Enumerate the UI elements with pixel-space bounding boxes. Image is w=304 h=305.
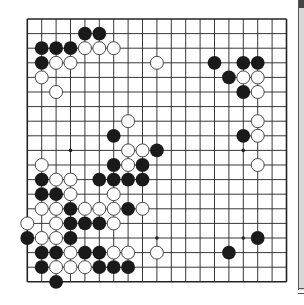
page-edge-cap: [299, 0, 304, 8]
black-stone: [35, 41, 49, 55]
white-stone: [50, 202, 63, 215]
white-stone: [251, 115, 264, 128]
white-stone: [50, 261, 63, 274]
star-point: [242, 149, 246, 153]
white-stone: [64, 56, 77, 69]
white-stone: [122, 159, 135, 172]
black-stone: [35, 173, 49, 187]
black-stone: [78, 217, 92, 231]
white-stone: [64, 173, 77, 186]
white-stone: [50, 232, 63, 245]
star-point: [69, 149, 73, 153]
white-stone: [150, 246, 163, 259]
white-stone: [251, 129, 264, 142]
black-stone: [136, 158, 150, 172]
black-stone: [78, 27, 92, 41]
white-stone: [251, 71, 264, 84]
white-stone: [64, 246, 77, 259]
white-stone: [150, 56, 163, 69]
black-stone: [92, 246, 106, 260]
black-stone: [92, 260, 106, 274]
white-stone: [50, 173, 63, 186]
white-stone: [93, 42, 106, 55]
black-stone: [35, 246, 49, 260]
white-stone: [251, 159, 264, 172]
black-stone: [107, 173, 121, 187]
go-board: [0, 0, 304, 305]
black-stone: [92, 173, 106, 187]
black-stone: [107, 158, 121, 172]
white-stone: [50, 217, 63, 230]
white-stone: [93, 202, 106, 215]
white-stone: [251, 86, 264, 99]
white-stone: [78, 261, 91, 274]
white-stone: [64, 188, 77, 201]
white-stone: [64, 261, 77, 274]
white-stone: [107, 42, 120, 55]
black-stone: [64, 41, 78, 55]
white-stone: [21, 217, 34, 230]
black-stone: [236, 85, 250, 99]
black-stone: [49, 275, 63, 289]
black-stone: [49, 41, 63, 55]
white-stone: [107, 202, 120, 215]
black-stone: [150, 144, 164, 158]
white-stone: [107, 188, 120, 201]
black-stone: [64, 217, 78, 231]
white-stone: [107, 246, 120, 259]
black-stone: [251, 231, 265, 245]
star-point: [242, 236, 246, 240]
black-stone: [107, 129, 121, 143]
black-stone: [49, 246, 63, 260]
white-stone: [35, 159, 48, 172]
black-stone: [251, 56, 265, 70]
white-stone: [136, 202, 149, 215]
page-edge-foot: [298, 288, 304, 294]
white-stone: [78, 42, 91, 55]
white-stone: [78, 202, 91, 215]
white-stone: [122, 144, 135, 157]
black-stone: [107, 260, 121, 274]
black-stone: [121, 202, 135, 216]
black-stone: [92, 217, 106, 231]
black-stone: [64, 231, 78, 245]
black-stone: [78, 246, 92, 260]
go-board-diagram: [0, 0, 304, 305]
black-stone: [64, 202, 78, 216]
black-stone: [49, 187, 63, 201]
white-stone: [107, 217, 120, 230]
black-stone: [121, 173, 135, 187]
white-stone: [136, 144, 149, 157]
adjacent-page-edge: [298, 0, 304, 290]
black-stone: [236, 129, 250, 143]
black-stone: [35, 56, 49, 70]
black-stone: [92, 27, 106, 41]
black-stone: [222, 71, 236, 85]
white-stone: [50, 86, 63, 99]
white-stone: [35, 232, 48, 245]
black-stone: [208, 56, 222, 70]
white-stone: [122, 115, 135, 128]
star-point: [155, 236, 159, 240]
black-stone: [222, 246, 236, 260]
black-stone: [20, 231, 34, 245]
white-stone: [237, 71, 250, 84]
white-stone: [122, 246, 135, 259]
white-stone: [35, 202, 48, 215]
black-stone: [136, 173, 150, 187]
black-stone: [121, 260, 135, 274]
black-stone: [236, 56, 250, 70]
black-stone: [35, 260, 49, 274]
white-stone: [50, 56, 63, 69]
white-stone: [35, 71, 48, 84]
black-stone: [35, 187, 49, 201]
